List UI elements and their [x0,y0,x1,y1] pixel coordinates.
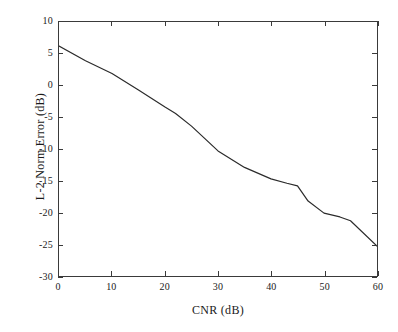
y-tick-mark [58,117,63,118]
y-tick-mark [58,21,63,22]
chart-figure: 0102030405060 1050-5-10-15-20-25-30 CNR … [0,0,398,332]
x-tick-mark [165,271,166,276]
y-tick-mark [58,181,63,182]
y-axis-label: L-2 Norm Error (dB) [33,42,48,252]
y-tick-mark [372,53,377,54]
x-tick-mark [111,271,112,276]
y-tick-mark [58,149,63,150]
x-tick-label: 0 [38,281,78,293]
x-tick-mark [378,21,379,26]
x-tick-label: 40 [251,281,291,293]
data-series-line [59,46,377,246]
y-tick-mark [58,53,63,54]
x-tick-label: 10 [91,281,131,293]
y-tick-mark [372,277,377,278]
y-tick-mark [58,277,63,278]
y-tick-label: 10 [19,16,53,26]
y-tick-mark [372,85,377,86]
x-tick-mark [165,21,166,26]
x-axis-label: CNR (dB) [58,303,378,318]
x-tick-mark [218,21,219,26]
data-line-svg [59,22,377,276]
x-tick-label: 60 [358,281,398,293]
y-tick-mark [372,245,377,246]
x-tick-mark [271,21,272,26]
x-tick-mark [378,271,379,276]
y-tick-mark [372,117,377,118]
y-tick-mark [372,181,377,182]
y-tick-mark [58,85,63,86]
y-tick-mark [372,213,377,214]
y-tick-label: -30 [19,272,53,282]
y-tick-mark [372,149,377,150]
x-tick-mark [111,21,112,26]
x-tick-label: 20 [145,281,185,293]
y-tick-mark [58,213,63,214]
x-tick-mark [218,271,219,276]
x-tick-label: 50 [305,281,345,293]
x-tick-mark [271,271,272,276]
x-tick-mark [325,271,326,276]
y-tick-mark [58,245,63,246]
x-tick-label: 30 [198,281,238,293]
x-tick-mark [325,21,326,26]
plot-area [58,21,378,277]
x-tick-mark [58,271,59,276]
y-tick-mark [372,21,377,22]
